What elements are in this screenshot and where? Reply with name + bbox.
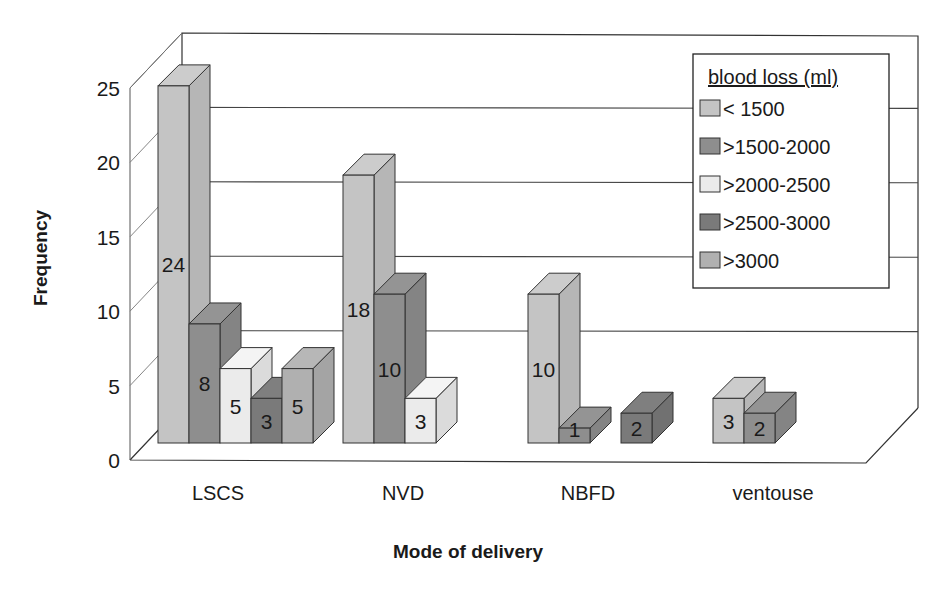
data-label: 18 <box>347 298 370 321</box>
x-axis-categories: LSCSNVDNBFDventouse <box>192 482 814 504</box>
legend-label: >3000 <box>723 250 779 272</box>
data-label: 1 <box>569 418 581 441</box>
legend-label: >1500-2000 <box>723 136 830 158</box>
x-tick-label: LSCS <box>192 482 244 504</box>
legend: blood loss (ml) < 1500>1500-2000>2000-25… <box>693 54 889 288</box>
x-tick-label: NVD <box>382 482 424 504</box>
data-label: 2 <box>631 417 643 440</box>
y-tick-label: 5 <box>108 375 120 398</box>
y-tick-label: 20 <box>97 151 120 174</box>
bar: 2 <box>621 392 673 443</box>
legend-swatch <box>700 176 720 192</box>
legend-label: >2000-2500 <box>723 174 830 196</box>
data-label: 10 <box>532 358 555 381</box>
data-label: 10 <box>378 358 401 381</box>
bar-chart-3d: 0510152025 24853518103101232 LSCSNVDNBFD… <box>0 0 947 595</box>
x-axis-title: Mode of delivery <box>393 541 543 562</box>
data-label: 3 <box>415 410 427 433</box>
data-label: 2 <box>754 417 766 440</box>
legend-swatch <box>700 214 720 230</box>
x-tick-label: ventouse <box>732 482 813 504</box>
y-tick-label: 25 <box>97 77 120 100</box>
x-tick-label: NBFD <box>561 482 615 504</box>
y-axis-ticks: 0510152025 <box>97 77 120 472</box>
data-label: 5 <box>230 395 242 418</box>
y-tick-label: 15 <box>97 226 120 249</box>
legend-label: < 1500 <box>723 98 785 120</box>
y-axis-title: Frequency <box>30 210 51 307</box>
y-tick-label: 10 <box>97 300 120 323</box>
data-label: 3 <box>723 410 735 433</box>
data-label: 5 <box>292 395 304 418</box>
bar: 5 <box>282 348 334 443</box>
legend-swatch <box>700 138 720 154</box>
legend-title: blood loss (ml) <box>708 66 838 88</box>
data-label: 3 <box>261 410 273 433</box>
y-tick-label: 0 <box>108 449 120 472</box>
legend-swatch <box>700 100 720 116</box>
data-label: 8 <box>199 372 211 395</box>
legend-label: >2500-3000 <box>723 212 830 234</box>
data-label: 24 <box>162 253 186 276</box>
legend-swatch <box>700 252 720 268</box>
